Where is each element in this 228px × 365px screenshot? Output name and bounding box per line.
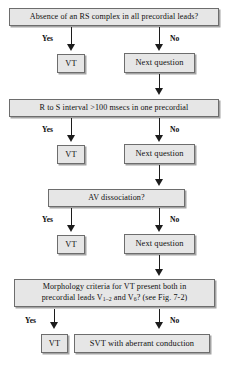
- branch-label-no-2: No: [170, 125, 179, 134]
- outcome-box-vt-3: VT: [57, 235, 85, 254]
- yes-arrow-head-2: [67, 135, 75, 142]
- question-4-line2-part1: precordial leads V: [42, 293, 103, 302]
- question-box-3: AV dissociation?: [48, 189, 185, 207]
- question-box-2: R to S interval >100 msecs in one precor…: [9, 99, 219, 117]
- link-arrow-3-4: [155, 269, 163, 276]
- outcome-vt-1-text: VT: [65, 59, 76, 69]
- no-arrow-head-1: [155, 44, 163, 51]
- no-arrow-head-4: [155, 322, 163, 329]
- outcome-vt-4-text: VT: [49, 339, 60, 349]
- yes-arrow-head-1: [67, 44, 75, 51]
- question-3-text: AV dissociation?: [88, 193, 144, 203]
- outcome-box-next-1: Next question: [124, 53, 195, 73]
- outcome-svt-text: SVT with aberrant conduction: [90, 339, 194, 349]
- outcome-box-vt-1: VT: [57, 54, 85, 73]
- branch-label-yes-2: Yes: [42, 125, 53, 134]
- outcome-next-3-text: Next question: [135, 239, 183, 249]
- branch-label-no-1: No: [170, 34, 179, 43]
- branch-label-yes-4: Yes: [25, 316, 36, 325]
- flowchart-diagram: Absence of an RS complex in all precordi…: [0, 0, 228, 365]
- question-box-4: Morphology criteria for VT present both …: [14, 279, 215, 307]
- branch-label-no-3: No: [170, 215, 179, 224]
- question-1-text: Absence of an RS complex in all precordi…: [30, 12, 199, 22]
- question-4-line1: Morphology criteria for VT present both …: [43, 282, 187, 293]
- no-arrow-head-3: [155, 225, 163, 232]
- outcome-next-1-text: Next question: [135, 58, 183, 68]
- question-4-line2-part3: ? (see Fig. 7-2): [137, 293, 188, 302]
- outcome-box-vt-2: VT: [57, 145, 85, 164]
- question-2-text: R to S interval >100 msecs in one precor…: [40, 103, 189, 113]
- outcome-box-next-3: Next question: [124, 234, 195, 254]
- outcome-vt-3-text: VT: [65, 240, 76, 250]
- question-box-1: Absence of an RS complex in all precordi…: [9, 8, 219, 26]
- question-4-sub1: 1–2: [103, 296, 112, 302]
- yes-arrow-head-3: [67, 225, 75, 232]
- outcome-box-vt-4: VT: [41, 334, 68, 353]
- branch-label-no-4: No: [170, 316, 179, 325]
- yes-arrow-head-4: [50, 322, 58, 329]
- link-arrow-2-3: [155, 179, 163, 186]
- link-arrow-1-2: [155, 88, 163, 95]
- question-4-line2-part2: and V: [112, 293, 134, 302]
- outcome-box-svt: SVT with aberrant conduction: [74, 334, 210, 353]
- no-arrow-head-2: [155, 135, 163, 142]
- question-4-line2: precordial leads V1–2 and V6? (see Fig. …: [42, 293, 188, 304]
- outcome-next-2-text: Next question: [135, 149, 183, 159]
- branch-label-yes-1: Yes: [42, 34, 53, 43]
- outcome-box-next-2: Next question: [124, 144, 195, 164]
- branch-label-yes-3: Yes: [42, 215, 53, 224]
- outcome-vt-2-text: VT: [65, 150, 76, 160]
